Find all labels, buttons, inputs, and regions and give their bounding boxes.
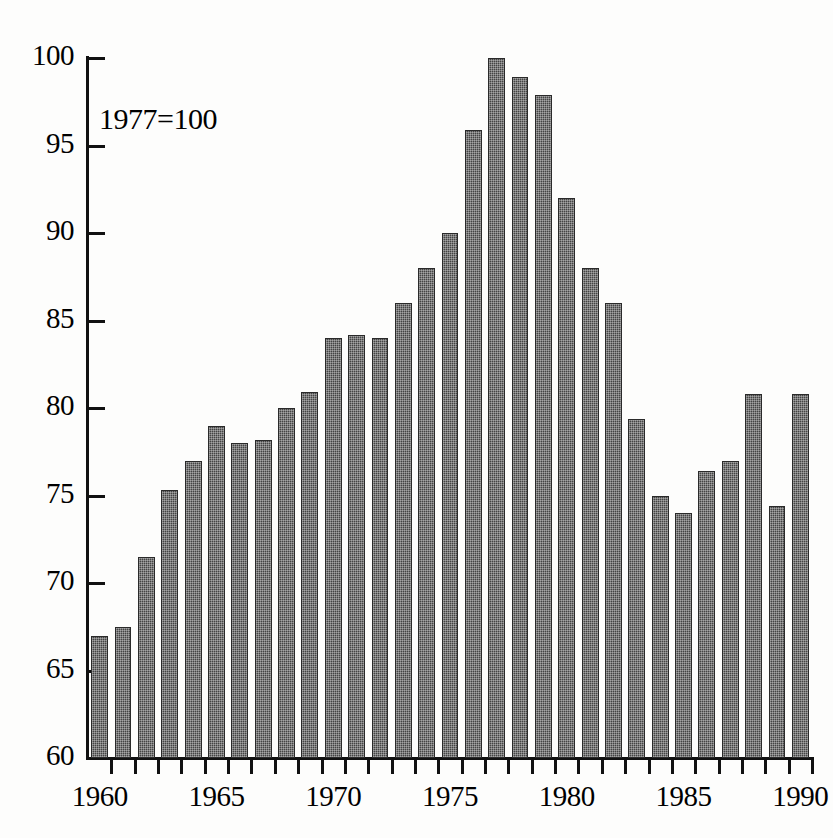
x-axis-tick (554, 759, 557, 774)
y-axis-tick-label-text: 75 (12, 479, 74, 508)
y-axis-tick-label: 65 (12, 654, 74, 684)
x-axis-tick (227, 759, 230, 774)
y-axis-tick-label-text: 60 (12, 741, 74, 770)
bar (512, 77, 529, 758)
y-axis-tick-label-text: 95 (12, 129, 74, 158)
x-axis-tick (461, 759, 464, 774)
bar (605, 303, 622, 758)
x-axis-tick-label: 1960 (40, 780, 160, 812)
x-axis-tick-label: 1990 (740, 780, 833, 812)
x-axis-tick (180, 759, 183, 774)
x-axis-tick (764, 759, 767, 774)
bar (208, 426, 225, 759)
y-axis-tick-label: 85 (12, 304, 74, 334)
bar (348, 335, 365, 759)
bar (255, 440, 272, 759)
x-axis-tick (741, 759, 744, 774)
base-year-annotation: 1977=100 (99, 103, 217, 135)
x-axis-tick (414, 759, 417, 774)
x-axis-tick (788, 759, 791, 774)
plot-area (88, 58, 812, 758)
x-axis-tick (484, 759, 487, 774)
y-axis-tick-label-text: 85 (12, 304, 74, 333)
bar (535, 95, 552, 758)
bar (722, 461, 739, 759)
x-axis-tick (321, 759, 324, 774)
y-axis-tick-label-text: 90 (12, 216, 74, 245)
y-axis-tick-label: 95 (12, 129, 74, 159)
x-axis-tick (157, 759, 160, 774)
x-axis-tick (367, 759, 370, 774)
y-axis-tick-label-text: 100 (12, 41, 74, 70)
bar (488, 58, 505, 758)
bar (792, 394, 809, 758)
bar (115, 627, 132, 758)
bar (395, 303, 412, 758)
x-axis-tick-label: 1980 (507, 780, 627, 812)
x-axis-tick (624, 759, 627, 774)
x-axis-tick (134, 759, 137, 774)
bar (231, 443, 248, 758)
bar (628, 419, 645, 759)
y-axis-tick-label: 75 (12, 479, 74, 509)
x-axis-tick (250, 759, 253, 774)
bar (161, 490, 178, 758)
bar (558, 198, 575, 758)
x-axis-tick (274, 759, 277, 774)
y-axis-tick-label: 80 (12, 391, 74, 421)
x-axis-tick-label: 1975 (390, 780, 510, 812)
x-axis-tick-label: 1985 (624, 780, 744, 812)
x-axis-tick (671, 759, 674, 774)
x-axis-tick (204, 759, 207, 774)
x-axis-tick (297, 759, 300, 774)
bar (418, 268, 435, 758)
x-axis-tick-label: 1965 (156, 780, 276, 812)
bar (185, 461, 202, 759)
y-axis-tick-label-text: 65 (12, 654, 74, 683)
x-axis-tick (507, 759, 510, 774)
bar (675, 513, 692, 758)
y-axis-tick-label: 100 (12, 41, 74, 71)
x-axis-tick (648, 759, 651, 774)
bar (698, 471, 715, 758)
x-axis-tick (437, 759, 440, 774)
x-axis-tick (718, 759, 721, 774)
x-axis-tick-label: 1970 (273, 780, 393, 812)
bar (582, 268, 599, 758)
bar (325, 338, 342, 758)
bar (745, 394, 762, 758)
y-axis-tick-label-text: 80 (12, 391, 74, 420)
x-axis-tick (601, 759, 604, 774)
bar (372, 338, 389, 758)
bar (91, 636, 108, 759)
y-axis-tick-label: 70 (12, 566, 74, 596)
x-axis-tick (391, 759, 394, 774)
bar (138, 557, 155, 758)
x-axis-tick (694, 759, 697, 774)
bar (278, 408, 295, 758)
bar (465, 130, 482, 758)
bar (769, 506, 786, 758)
x-axis-tick (344, 759, 347, 774)
x-axis-tick (110, 759, 113, 774)
y-axis-tick-label: 90 (12, 216, 74, 246)
bar (652, 496, 669, 759)
x-axis-tick (577, 759, 580, 774)
y-axis-tick-label: 60 (12, 741, 74, 771)
bar (301, 392, 318, 758)
bar-chart-figure: 6065707580859095100 19601965197019751980… (0, 0, 833, 838)
bar (442, 233, 459, 758)
y-axis-tick-label-text: 70 (12, 566, 74, 595)
x-axis-tick (531, 759, 534, 774)
x-axis-tick (811, 759, 814, 774)
